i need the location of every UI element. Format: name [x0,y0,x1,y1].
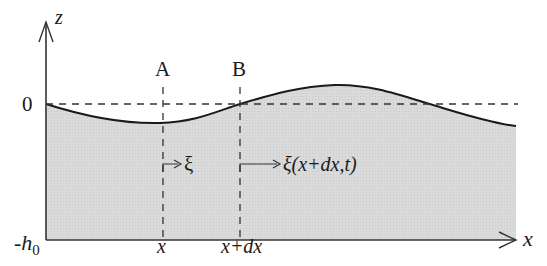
x-axis-label: x [522,226,533,251]
z-axis-label: z [54,6,63,28]
section-b-label: B [232,57,246,81]
displacement-label-b: ξ(x+dx,t) [283,153,357,176]
depth-label-sub: 0 [32,242,40,258]
zero-label: 0 [22,92,33,116]
section-a-label: A [155,57,171,81]
depth-label-main: -h [14,230,32,255]
displacement-label-a: ξ [184,152,193,176]
position-label-a: x [156,235,166,257]
depth-label: -h0 [14,230,40,258]
position-label-b: x+dx [220,235,262,257]
wave-diagram: z x 0 -h0 A B ξ ξ(x+dx,t) x x+dx [0,0,547,266]
